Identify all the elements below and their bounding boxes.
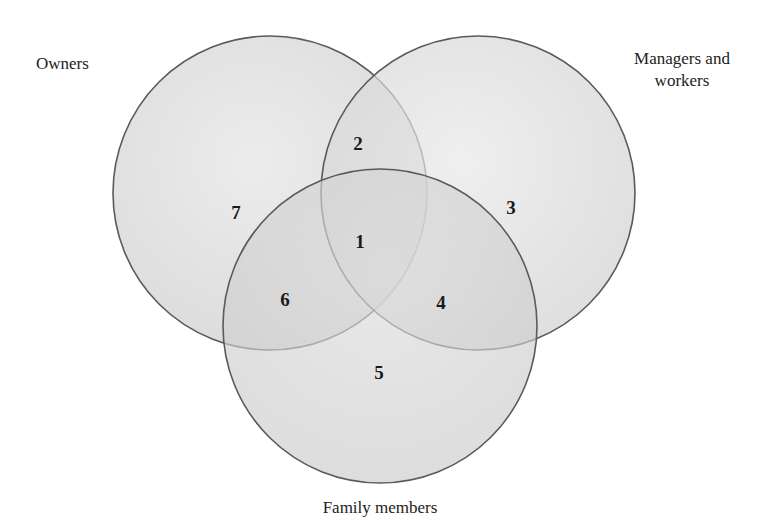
owners-label: Owners bbox=[36, 53, 89, 75]
region-7: 7 bbox=[231, 202, 241, 223]
managers-label: Managers and workers bbox=[612, 48, 752, 92]
region-2: 2 bbox=[353, 133, 363, 154]
managers-label-line-2: workers bbox=[612, 70, 752, 92]
region-5: 5 bbox=[374, 362, 384, 383]
region-6: 6 bbox=[280, 289, 290, 310]
region-4: 4 bbox=[436, 292, 446, 313]
family-label: Family members bbox=[290, 497, 470, 519]
family-circle bbox=[223, 169, 537, 483]
managers-label-line-1: Managers and bbox=[612, 48, 752, 70]
region-1: 1 bbox=[355, 231, 365, 252]
region-3: 3 bbox=[506, 197, 516, 218]
